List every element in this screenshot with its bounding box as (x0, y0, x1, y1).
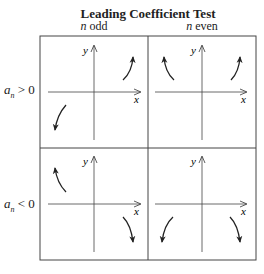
x-axis-label: x (240, 205, 246, 217)
right-end-down-arrow (123, 217, 133, 242)
cell-positive-odd: y x (48, 44, 140, 140)
grid-frame (40, 36, 256, 260)
x-axis-label: x (240, 93, 246, 105)
end-behavior-grid: y x y x y x y x (0, 0, 264, 274)
right-end-up-arrow (123, 57, 133, 80)
x-axis-label: x (133, 205, 139, 217)
right-end-up-arrow (231, 57, 240, 80)
y-axis-label: y (82, 155, 88, 167)
y-axis-label: y (190, 44, 196, 56)
left-end-down-arrow (55, 105, 66, 130)
right-end-down-arrow (230, 217, 240, 242)
cell-positive-even: y x (155, 44, 246, 140)
left-end-up-arrow (55, 168, 66, 192)
left-end-down-arrow (162, 217, 173, 242)
cell-negative-odd: y x (48, 155, 140, 252)
y-axis-label: y (190, 155, 196, 167)
cell-negative-even: y x (155, 155, 246, 252)
y-axis-label: y (82, 44, 88, 56)
x-axis-label: x (133, 93, 139, 105)
left-end-up-arrow (164, 57, 174, 80)
